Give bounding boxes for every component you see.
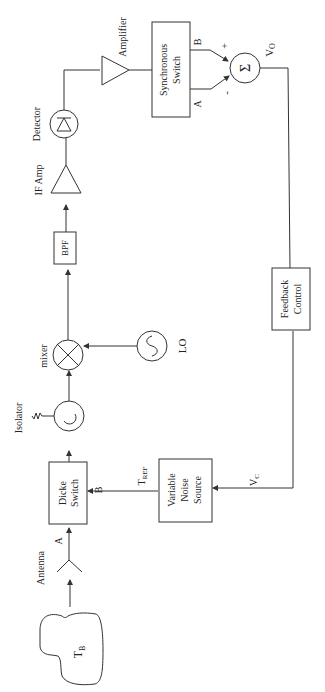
line-sum-feedback xyxy=(260,68,290,268)
dicke-port-b-label: B xyxy=(93,486,104,493)
vc-label: VC xyxy=(248,474,261,486)
lo-label: LO xyxy=(176,339,188,354)
arrow-sync-b-sum xyxy=(190,50,228,61)
if-amp-icon xyxy=(51,165,81,193)
dicke-switch-label-1: Dicke xyxy=(57,481,68,505)
noise-source-label-3: Source xyxy=(192,476,203,504)
noise-source-label-1: Variable xyxy=(166,473,177,507)
bpf-label: BPF xyxy=(60,240,70,256)
sigma-symbol: Σ xyxy=(238,64,253,72)
arrow-sync-a-sum xyxy=(190,76,229,89)
sync-port-a-label: A xyxy=(192,100,203,108)
minus-sign: - xyxy=(220,91,232,95)
plus-sign: + xyxy=(219,43,230,49)
detector-icon xyxy=(50,110,78,138)
svg-text:TB: TB xyxy=(71,646,87,659)
dicke-switch-block xyxy=(49,462,87,524)
sync-port-b-label: B xyxy=(192,38,203,45)
amplifier-label: Amplifier xyxy=(117,17,128,57)
amplifier-icon xyxy=(102,56,129,85)
mixer-label: mixer xyxy=(38,344,49,368)
dicke-switch-label-2: Switch xyxy=(69,479,80,507)
line-detector-amplifier xyxy=(64,70,100,110)
source-blob: TB xyxy=(40,613,103,685)
detector-label: Detector xyxy=(31,106,42,141)
isolator-label: Isolator xyxy=(13,402,24,433)
dicke-port-a-label: A xyxy=(53,537,64,545)
dicke-radiometer-diagram: TB Antenna A Dicke Switch B TREF Variabl… xyxy=(0,0,325,692)
vo-label: VO xyxy=(263,43,277,57)
feedback-label-1: Feedback xyxy=(279,280,290,318)
arrow-vc xyxy=(213,331,293,488)
noise-source-label-2: Noise xyxy=(179,478,190,502)
antenna-icon xyxy=(57,528,82,572)
isolator-icon xyxy=(54,401,84,431)
tref-label: TREF xyxy=(136,466,149,485)
isolator-load-icon xyxy=(32,413,54,419)
sync-switch-label-1: Synchronous xyxy=(158,44,169,96)
antenna-label: Antenna xyxy=(35,551,46,585)
sync-switch-label-2: Switch xyxy=(171,56,182,84)
feedback-label-2: Control xyxy=(292,284,303,315)
feedback-control-block xyxy=(272,268,310,330)
if-amp-label: IF Amp xyxy=(33,165,44,196)
